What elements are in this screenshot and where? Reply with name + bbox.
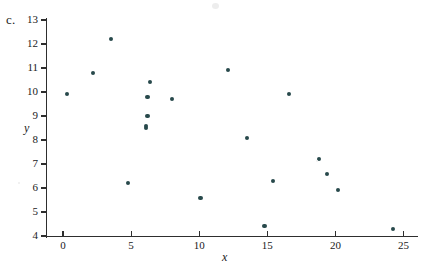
data-point: [325, 172, 329, 176]
data-point: [391, 227, 395, 231]
data-point: [144, 124, 148, 128]
scan-artifact-top: [212, 3, 219, 9]
data-point: [226, 68, 230, 72]
data-point: [170, 97, 174, 101]
scatter-plot-panel: c. 45678910111213 0510152025 y x: [0, 0, 426, 273]
data-point: [126, 181, 130, 185]
data-point: [145, 95, 149, 99]
data-point: [336, 188, 340, 192]
figure-page: c. 45678910111213 0510152025 y x: [0, 0, 426, 273]
data-point: [109, 37, 113, 41]
data-point: [145, 114, 149, 118]
data-point: [245, 136, 249, 140]
data-point: [198, 196, 202, 200]
data-point: [91, 71, 95, 75]
data-point: [148, 80, 152, 84]
data-point: [262, 224, 266, 228]
data-point: [271, 179, 275, 183]
plot-data-area: [0, 0, 426, 273]
scan-artifact-left: [18, 182, 20, 184]
scan-artifact-right: [316, 160, 318, 162]
data-point: [287, 92, 291, 96]
data-point: [65, 92, 69, 96]
